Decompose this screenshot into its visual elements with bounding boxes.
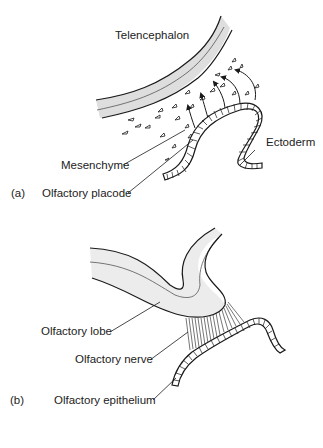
olfactory-epithelium-shape [172, 318, 285, 386]
migration-arrows [188, 70, 256, 128]
label-olfactory-nerve: Olfactory nerve [75, 354, 153, 366]
olfactory-placode-shape [163, 103, 262, 180]
olfactory-development-diagram: Telencephalon Ectoderm Mesenchyme (a) Ol… [0, 0, 323, 448]
label-telencephalon: Telencephalon [115, 30, 189, 42]
label-mesenchyme: Mesenchyme [61, 160, 129, 172]
panel-a-letter: (a) [11, 188, 25, 200]
label-olfactory-placode: Olfactory placode [42, 188, 132, 200]
panel-b-letter: (b) [10, 395, 24, 407]
label-ectoderm: Ectoderm [266, 137, 315, 149]
label-olfactory-lobe: Olfactory lobe [41, 326, 112, 338]
label-olfactory-epithelium: Olfactory epithelium [54, 395, 156, 407]
diagram-drawing [0, 0, 323, 448]
